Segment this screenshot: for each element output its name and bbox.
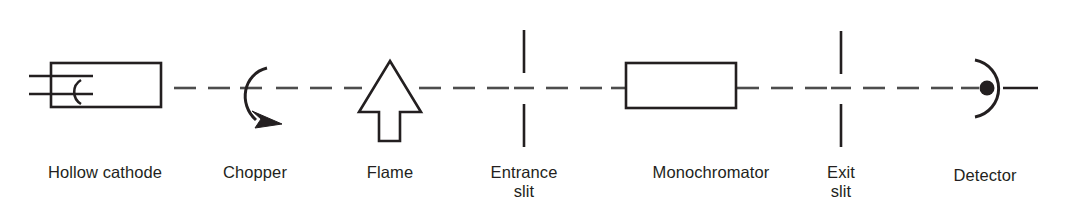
monochromator-icon: [626, 63, 736, 108]
flame-arrow-outline: [359, 61, 421, 141]
lamp-body-rect: [51, 63, 161, 107]
chopper-rotation-arc: [245, 68, 267, 120]
detector-sensor-dot: [980, 81, 995, 96]
label-flame: Flame: [330, 163, 450, 182]
atomic-absorption-spectrometer-figure: Hollow cathode Chopper Flame Entrance sl…: [0, 0, 1067, 208]
chopper-arrowhead: [252, 111, 282, 128]
chopper-icon: [245, 68, 282, 128]
monochromator-body-rect: [626, 63, 736, 108]
label-chopper: Chopper: [195, 163, 315, 182]
flame-icon: [359, 61, 421, 141]
hollow-cathode-lamp-icon: [29, 63, 161, 107]
detector-icon: [975, 60, 1038, 117]
label-hollow-cathode: Hollow cathode: [15, 163, 195, 182]
label-exit-slit: Exit slit: [793, 163, 889, 201]
label-monochromator: Monochromator: [621, 163, 801, 182]
cathode-cup-arc: [74, 80, 81, 104]
label-detector: Detector: [937, 166, 1033, 185]
label-entrance-slit: Entrance slit: [476, 163, 572, 201]
